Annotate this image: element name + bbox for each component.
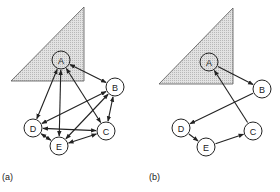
edge-d-e	[189, 134, 198, 141]
node-e: E	[197, 138, 215, 156]
svg-text:C: C	[103, 127, 110, 137]
node-c: C	[244, 122, 262, 140]
edge-d-c	[43, 128, 96, 130]
svg-text:B: B	[259, 85, 265, 95]
panel-a-diagram: ABCDE	[11, 7, 124, 155]
node-e: E	[50, 137, 68, 155]
node-b: B	[106, 78, 124, 96]
svg-text:B: B	[112, 83, 118, 93]
shaded-triangle-region	[159, 8, 233, 84]
node-b: B	[253, 80, 271, 98]
svg-text:C: C	[250, 127, 257, 137]
panel-b-diagram: ABCDE	[159, 8, 271, 156]
edge-b-d	[42, 91, 106, 123]
panel-a-label: (a)	[2, 172, 13, 182]
node-d: D	[24, 119, 42, 137]
svg-text:D: D	[178, 124, 185, 134]
svg-text:D: D	[30, 124, 37, 134]
graph-diagram: ABCDE ABCDE	[0, 0, 280, 192]
svg-text:A: A	[58, 56, 64, 66]
edge-e-c	[215, 134, 243, 144]
shaded-triangle-region	[11, 7, 84, 81]
node-d: D	[172, 119, 190, 137]
node-c: C	[97, 122, 115, 140]
edge-b-d	[190, 93, 253, 123]
svg-text:A: A	[206, 58, 212, 68]
svg-text:E: E	[56, 142, 62, 152]
panel-b-label: (b)	[149, 172, 160, 182]
edge-e-c	[69, 134, 97, 143]
edge-b-c	[108, 97, 113, 121]
edge-d-e	[41, 134, 51, 141]
svg-text:E: E	[203, 143, 209, 153]
